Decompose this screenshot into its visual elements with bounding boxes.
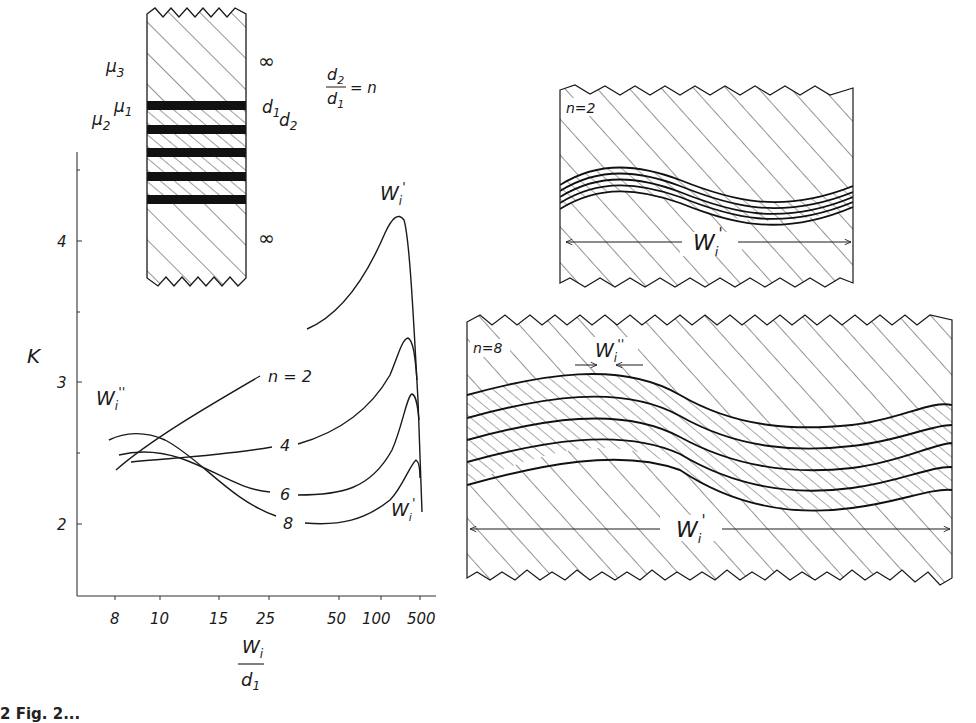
figure-caption: 2 Fig. 2... — [0, 705, 80, 723]
tail-wi-prime-label: Wi' — [391, 495, 415, 524]
peak-wi-prime-label: Wi' — [380, 179, 406, 208]
svg-text:d1: d1 — [241, 669, 260, 693]
y-axis-title: K — [27, 344, 42, 368]
curve-label-n2: n = 2 — [268, 367, 312, 386]
infinity-top-label: ∞ — [258, 49, 275, 73]
curve-n6 — [119, 394, 419, 495]
infinity-bottom-label: ∞ — [258, 226, 275, 250]
y-tick-2: 2 — [57, 516, 67, 534]
x-tick-500: 500 — [407, 610, 436, 628]
thickness-ratio-formula: d2 d1 = n — [326, 65, 377, 111]
svg-text:Wi: Wi — [242, 636, 264, 661]
x-tick-8: 8 — [110, 610, 120, 628]
d1-label: d1 — [262, 97, 280, 120]
curve-n8 — [109, 434, 420, 524]
curve-label-n4: 4 — [280, 436, 290, 455]
layer-stack-diagram: μ3 μ1 μ2 ∞ ∞ d1 d2 d2 d1 = n — [91, 0, 377, 300]
mu3-label: μ3 — [105, 56, 124, 80]
x-tick-100: 100 — [362, 610, 391, 628]
x-axis-title: Wi d1 — [238, 636, 264, 693]
svg-text:d1: d1 — [327, 89, 344, 111]
panel-n8-domain-sketch: n=8 Wi'' Wi' — [460, 305, 960, 595]
panel-n8-label: n=8 — [473, 340, 503, 356]
curve-label-n6: 6 — [280, 485, 290, 504]
panel-n2-width-label: Wi' — [693, 225, 723, 259]
x-tick-25: 25 — [256, 610, 275, 628]
svg-text:d2: d2 — [327, 65, 344, 87]
y-tick-3: 3 — [57, 374, 67, 392]
d2-label: d2 — [279, 110, 297, 133]
mu1-label: μ1 — [113, 96, 132, 119]
panel-n8-width-label: Wi' — [676, 512, 706, 546]
x-tick-50: 50 — [327, 610, 346, 628]
curve-label-n8: 8 — [283, 514, 293, 533]
curve-n4 — [131, 338, 417, 462]
hump-wi-double-prime-label: Wi'' — [96, 384, 125, 413]
panel-n2-label: n=2 — [566, 100, 596, 116]
svg-text:= n: = n — [350, 79, 377, 97]
mu2-label: μ2 — [91, 109, 110, 133]
panel-n2-domain-sketch: n=2 Wi' — [555, 80, 860, 295]
y-tick-4: 4 — [57, 233, 67, 251]
x-tick-15: 15 — [209, 610, 228, 628]
x-tick-10: 10 — [150, 610, 169, 628]
